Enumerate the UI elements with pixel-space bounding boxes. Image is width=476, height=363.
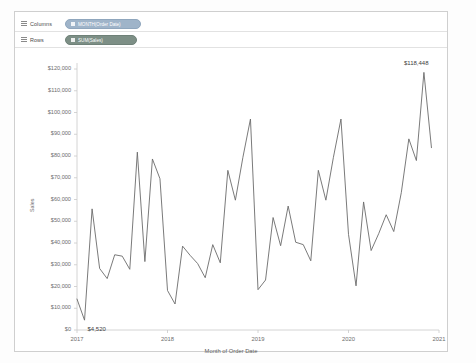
y-axis-tick-label: $40,000 [15, 239, 71, 245]
columns-shelf[interactable]: Columns MONTH(Order Date) [15, 17, 447, 32]
x-axis-title: Month of Order Date [15, 348, 447, 354]
chart-viewport: $120,000$110,000$100,000$90,000$80,000$7… [15, 49, 447, 351]
y-axis-tick-label: $100,000 [15, 109, 71, 115]
y-axis-tick-label: $80,000 [15, 152, 71, 158]
y-axis-title: Sales [29, 198, 35, 212]
tableau-worksheet: Columns MONTH(Order Date) Rows SUM(Sales… [0, 0, 476, 363]
rows-shelf-label: Rows [15, 37, 65, 43]
y-axis-tick-label: $90,000 [15, 130, 71, 136]
columns-shelf-label: Columns [15, 21, 65, 27]
pill-month-order-date-text: MONTH(Order Date) [78, 22, 121, 27]
y-axis-tick-label: $20,000 [15, 283, 71, 289]
grip-icon [21, 21, 27, 27]
y-axis-tick-label: $50,000 [15, 217, 71, 223]
sales-line-chart [15, 49, 447, 352]
x-axis-tick-label: 2019 [238, 336, 278, 342]
x-axis-tick-label: 2020 [329, 336, 369, 342]
pill-sum-sales[interactable]: SUM(Sales) [65, 35, 137, 45]
x-axis-tick-label: 2021 [419, 336, 459, 342]
max-label: $118,448 [404, 60, 429, 66]
x-axis-tick-label: 2017 [57, 336, 97, 342]
rows-label-text: Rows [30, 37, 44, 43]
y-axis-tick-label: $70,000 [15, 174, 71, 180]
x-axis-tick-label: 2018 [148, 336, 188, 342]
calendar-icon [71, 22, 75, 26]
y-axis-tick-label: $110,000 [15, 87, 71, 93]
y-axis-tick-label: $10,000 [15, 304, 71, 310]
worksheet-card: Columns MONTH(Order Date) Rows SUM(Sales… [14, 11, 448, 352]
y-axis-tick-label: $120,000 [15, 65, 71, 71]
y-axis-tick-label: $30,000 [15, 261, 71, 267]
min-label: $4,520 [88, 326, 106, 332]
y-axis-tick-label: $60,000 [15, 196, 71, 202]
columns-label-text: Columns [30, 21, 52, 27]
grip-icon [21, 37, 27, 43]
y-axis-tick-label: $0 [15, 326, 71, 332]
pill-sum-sales-text: SUM(Sales) [78, 38, 103, 43]
measure-icon [71, 38, 75, 42]
pill-month-order-date[interactable]: MONTH(Order Date) [65, 19, 141, 29]
rows-shelf[interactable]: Rows SUM(Sales) [15, 33, 447, 48]
